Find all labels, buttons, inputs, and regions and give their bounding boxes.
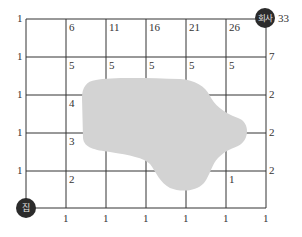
left-label: 1	[17, 89, 23, 100]
inner-label: 1	[229, 174, 235, 185]
bottom-label: 1	[223, 213, 229, 224]
inner-label: 2	[69, 174, 75, 185]
row2-label: 5	[69, 60, 75, 71]
home-node: 집	[16, 198, 36, 218]
top-label: 6	[69, 22, 75, 33]
top-label: 26	[229, 22, 240, 33]
right-label: 2	[269, 89, 275, 100]
left-label: 1	[17, 127, 23, 138]
left-label: 1	[17, 165, 23, 176]
inner-label: 3	[69, 136, 75, 147]
bottom-label: 1	[103, 213, 109, 224]
top-label: 21	[189, 22, 200, 33]
left-label: 1	[17, 51, 23, 62]
company-count: 33	[278, 13, 289, 24]
row2-label: 5	[229, 60, 235, 71]
row2-label: 5	[109, 60, 115, 71]
path-grid-diagram: 1 1 1 1 1 1 1 1 1 1 1 6 11 16 21 26 5 5 …	[0, 0, 302, 237]
top-label: 16	[149, 22, 160, 33]
left-label: 1	[17, 13, 23, 24]
right-label: 2	[269, 165, 275, 176]
bottom-label: 1	[183, 213, 189, 224]
bottom-label: 1	[263, 213, 269, 224]
grid-svg	[0, 0, 302, 237]
company-node: 회사	[255, 8, 275, 28]
bottom-label: 1	[63, 213, 69, 224]
right-label: 2	[269, 127, 275, 138]
top-label: 11	[109, 22, 120, 33]
row2-label: 5	[189, 60, 195, 71]
bottom-label: 1	[143, 213, 149, 224]
right-label: 7	[269, 51, 275, 62]
inner-label: 4	[69, 98, 75, 109]
row2-label: 5	[149, 60, 155, 71]
